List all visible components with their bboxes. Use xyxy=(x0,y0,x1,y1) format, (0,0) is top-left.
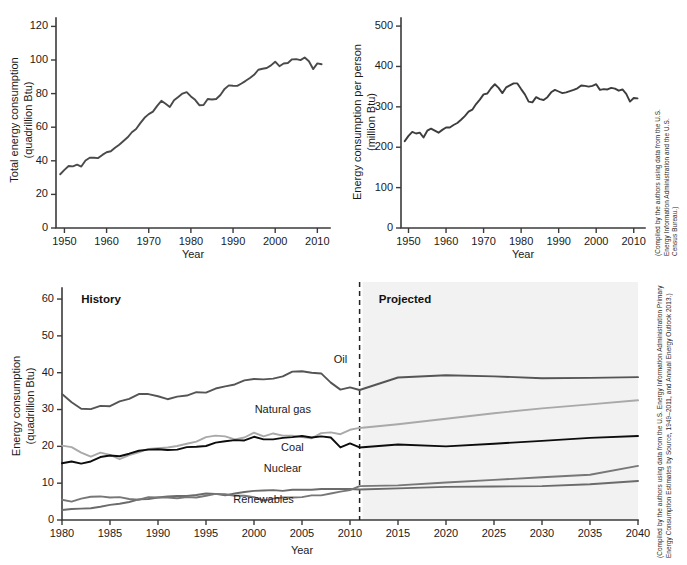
svg-text:0: 0 xyxy=(42,221,48,233)
svg-text:2005: 2005 xyxy=(290,527,314,539)
series-label-natural-gas: Natural gas xyxy=(255,403,312,415)
svg-text:1995: 1995 xyxy=(194,527,218,539)
svg-text:2035: 2035 xyxy=(578,527,602,539)
per-person-chart-svg: Energy consumption per person (million B… xyxy=(345,0,655,268)
svg-text:200: 200 xyxy=(375,140,393,152)
svg-text:Energy consumption per person: Energy consumption per person xyxy=(351,44,363,200)
y-axis-title-top-right: Energy consumption per person (million B… xyxy=(351,44,377,200)
svg-text:0: 0 xyxy=(387,221,393,233)
svg-text:120: 120 xyxy=(30,19,48,31)
svg-text:40: 40 xyxy=(36,154,48,166)
svg-text:1960: 1960 xyxy=(94,235,118,247)
series-label-coal: Coal xyxy=(281,441,304,453)
history-label: History xyxy=(81,293,121,305)
svg-text:2015: 2015 xyxy=(386,527,410,539)
svg-text:2000: 2000 xyxy=(584,235,608,247)
axis-ticks-top-left: 0204060801001201950196019701980199020002… xyxy=(30,19,330,247)
series-label-oil: Oil xyxy=(334,353,347,365)
svg-text:50: 50 xyxy=(42,329,54,341)
svg-text:Energy consumption: Energy consumption xyxy=(10,356,22,456)
svg-text:Year: Year xyxy=(182,248,205,260)
svg-text:1960: 1960 xyxy=(434,235,458,247)
svg-text:1950: 1950 xyxy=(52,235,76,247)
svg-text:2040: 2040 xyxy=(626,527,650,539)
per-person-line xyxy=(405,83,638,141)
series-inline-labels: OilNatural gasCoalNuclearRenewables xyxy=(233,353,347,505)
series-label-renewables: Renewables xyxy=(233,493,294,505)
svg-text:20: 20 xyxy=(36,187,48,199)
svg-text:500: 500 xyxy=(375,19,393,31)
svg-text:(quadrillion Btu): (quadrillion Btu) xyxy=(22,81,34,158)
svg-text:300: 300 xyxy=(375,100,393,112)
bottom-credit: (Compiled by the authors using data from… xyxy=(656,282,682,558)
bottom-panel: Energy consumption (quadrillion Btu) 010… xyxy=(0,276,650,565)
top-left-panel: Total energy consumption (quadrillion Bt… xyxy=(0,0,340,268)
svg-text:Total energy consumption: Total energy consumption xyxy=(8,57,20,182)
projected-label: Projected xyxy=(379,293,431,305)
total-energy-line xyxy=(60,57,321,174)
svg-text:(quadrillion Btu): (quadrillion Btu) xyxy=(24,367,36,444)
svg-text:2000: 2000 xyxy=(242,527,266,539)
svg-text:40: 40 xyxy=(42,366,54,378)
top-right-panel: Energy consumption per person (million B… xyxy=(345,0,655,268)
svg-text:60: 60 xyxy=(42,292,54,304)
axis-lines-top-left xyxy=(56,18,330,228)
series-label-nuclear: Nuclear xyxy=(264,462,302,474)
svg-text:1970: 1970 xyxy=(136,235,160,247)
svg-text:400: 400 xyxy=(375,59,393,71)
svg-text:2010: 2010 xyxy=(621,235,645,247)
svg-text:1950: 1950 xyxy=(396,235,420,247)
svg-text:2010: 2010 xyxy=(305,235,329,247)
svg-text:1990: 1990 xyxy=(546,235,570,247)
svg-text:1980: 1980 xyxy=(509,235,533,247)
svg-text:60: 60 xyxy=(36,120,48,132)
svg-text:0: 0 xyxy=(48,513,54,525)
y-axis-title-bottom: Energy consumption (quadrillion Btu) xyxy=(10,356,36,456)
svg-text:Year: Year xyxy=(512,248,535,260)
svg-text:2025: 2025 xyxy=(482,527,506,539)
svg-text:1990: 1990 xyxy=(146,527,170,539)
svg-text:2010: 2010 xyxy=(338,527,362,539)
svg-text:2020: 2020 xyxy=(434,527,458,539)
svg-text:1990: 1990 xyxy=(221,235,245,247)
axis-lines-top-right xyxy=(401,18,645,228)
svg-text:2000: 2000 xyxy=(263,235,287,247)
svg-text:80: 80 xyxy=(36,87,48,99)
svg-text:1980: 1980 xyxy=(50,527,74,539)
svg-text:100: 100 xyxy=(30,53,48,65)
svg-text:2030: 2030 xyxy=(530,527,554,539)
svg-text:100: 100 xyxy=(375,181,393,193)
svg-text:1970: 1970 xyxy=(471,235,495,247)
total-energy-chart-svg: Total energy consumption (quadrillion Bt… xyxy=(0,0,340,268)
by-source-chart-svg: Energy consumption (quadrillion Btu) 010… xyxy=(0,276,650,565)
svg-text:20: 20 xyxy=(42,439,54,451)
svg-text:1985: 1985 xyxy=(98,527,122,539)
svg-text:10: 10 xyxy=(42,476,54,488)
svg-text:Year: Year xyxy=(291,544,314,556)
top-right-credit: (Compiled by the authors using data from… xyxy=(654,104,678,256)
y-axis-title-top-left: Total energy consumption (quadrillion Bt… xyxy=(8,57,34,182)
svg-text:30: 30 xyxy=(42,402,54,414)
svg-text:1980: 1980 xyxy=(179,235,203,247)
